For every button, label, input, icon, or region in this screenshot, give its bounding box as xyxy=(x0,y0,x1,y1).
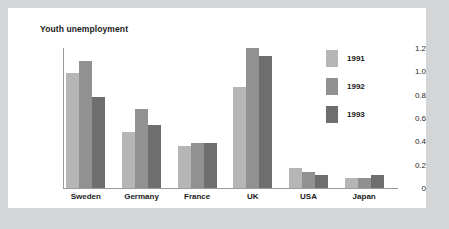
bar xyxy=(259,56,272,188)
bar xyxy=(289,168,302,188)
bar-group xyxy=(233,48,272,188)
chart-card: Youth unemployment 00.20.40.60.81.01.2 S… xyxy=(8,8,426,208)
y-axis-line xyxy=(63,48,64,188)
bar xyxy=(191,143,204,189)
legend-item[interactable]: 1992 xyxy=(326,74,421,99)
legend-swatch xyxy=(326,106,338,123)
bar xyxy=(371,175,384,188)
bar xyxy=(79,61,92,188)
bar-group xyxy=(178,48,217,188)
x-axis-line xyxy=(63,188,398,189)
chart-legend: 199119921993 xyxy=(326,46,421,130)
bar-group xyxy=(289,48,328,188)
bar xyxy=(302,172,315,188)
bar xyxy=(148,125,161,188)
y-axis-tick-label: 0.2 xyxy=(380,160,426,169)
bar xyxy=(315,175,328,188)
bar xyxy=(92,97,105,188)
bar xyxy=(178,146,191,188)
bar xyxy=(122,132,135,188)
bar xyxy=(204,143,217,189)
x-axis-category-label: Japan xyxy=(324,192,404,201)
bar-group xyxy=(66,48,105,188)
bar xyxy=(358,178,371,189)
legend-swatch xyxy=(326,50,338,67)
legend-label: 1992 xyxy=(347,82,365,91)
bar xyxy=(66,73,79,189)
y-axis-tick-label: 0.4 xyxy=(380,137,426,146)
legend-swatch xyxy=(326,78,338,95)
bar xyxy=(345,178,358,189)
legend-item[interactable]: 1993 xyxy=(326,102,421,127)
legend-item[interactable]: 1991 xyxy=(326,46,421,71)
bar xyxy=(246,48,259,188)
legend-label: 1993 xyxy=(347,110,365,119)
bar xyxy=(135,109,148,188)
bar xyxy=(233,87,246,189)
legend-label: 1991 xyxy=(347,54,365,63)
bar-group xyxy=(122,48,161,188)
figure-frame: Youth unemployment 00.20.40.60.81.01.2 S… xyxy=(0,0,449,229)
